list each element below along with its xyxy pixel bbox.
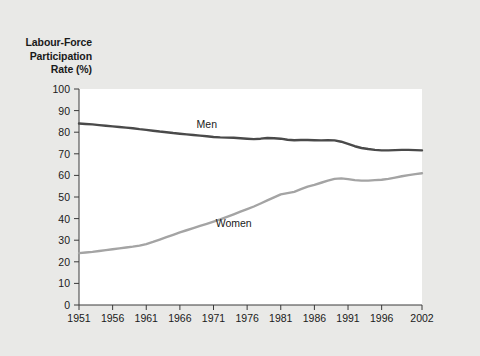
series-annotation-women: Women xyxy=(216,217,252,229)
y-tick-label: 10 xyxy=(58,277,70,289)
y-tick-label: 50 xyxy=(58,191,70,203)
chart-figure: Labour-Force Participation Rate (%) 0102… xyxy=(0,0,480,356)
x-tick-label: 1956 xyxy=(101,312,125,324)
y-tick-label: 60 xyxy=(58,169,70,181)
x-tick-label: 1966 xyxy=(168,312,192,324)
x-axis-tick-marks xyxy=(79,305,422,310)
x-tick-label: 1996 xyxy=(370,312,394,324)
line-chart: 0102030405060708090100 19511956196119661… xyxy=(0,0,480,356)
x-tick-label: 1991 xyxy=(336,312,360,324)
y-tick-label: 0 xyxy=(64,299,70,311)
y-tick-label: 90 xyxy=(58,105,70,117)
x-tick-label: 1971 xyxy=(202,312,226,324)
plot-area-background xyxy=(79,89,422,305)
x-tick-label: 1986 xyxy=(303,312,327,324)
x-tick-label: 1981 xyxy=(269,312,293,324)
x-tick-label: 1951 xyxy=(67,312,91,324)
series-annotation-men: Men xyxy=(197,118,218,130)
y-axis-tick-labels: 0102030405060708090100 xyxy=(52,83,70,311)
y-tick-label: 30 xyxy=(58,234,70,246)
x-tick-label: 1976 xyxy=(235,312,259,324)
y-tick-label: 100 xyxy=(52,83,70,95)
y-axis-tick-marks xyxy=(74,89,79,305)
x-axis-tick-labels: 1951195619611966197119761981198619911996… xyxy=(67,312,434,324)
y-tick-label: 70 xyxy=(58,148,70,160)
x-tick-label: 1961 xyxy=(135,312,159,324)
y-tick-label: 40 xyxy=(58,213,70,225)
x-tick-label: 2002 xyxy=(410,312,434,324)
y-tick-label: 20 xyxy=(58,256,70,268)
y-tick-label: 80 xyxy=(58,126,70,138)
